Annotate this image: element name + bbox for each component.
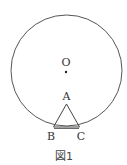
label-c: C bbox=[77, 130, 85, 143]
geometry-figure: O A B C 図1 bbox=[0, 0, 127, 165]
triangle-abc bbox=[54, 104, 80, 127]
center-point-o bbox=[65, 71, 67, 73]
label-a: A bbox=[62, 90, 72, 103]
label-o: O bbox=[61, 56, 70, 69]
label-b: B bbox=[47, 130, 55, 143]
circle-o bbox=[11, 15, 122, 126]
figure-caption: 図1 bbox=[55, 150, 73, 163]
